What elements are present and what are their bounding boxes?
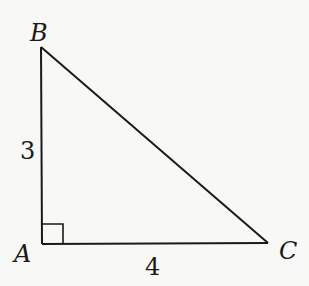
vertex-label-c: C [279,237,297,265]
side-ab [41,47,42,244]
vertex-label-b: B [29,19,48,47]
side-bc-hypotenuse [41,47,268,243]
right-angle-marker [42,224,63,244]
triangle-diagram: B A C 3 4 [0,0,309,286]
side-ac [42,243,268,244]
triangle-figure: B A C 3 4 [0,0,309,286]
side-label-ab: 3 [20,137,35,165]
side-label-ac: 4 [145,253,160,281]
vertex-label-a: A [12,240,31,268]
